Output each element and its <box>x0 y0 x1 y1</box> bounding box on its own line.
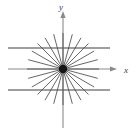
coordinate-plane-svg: y x <box>0 0 137 128</box>
x-axis-label: x <box>123 65 128 75</box>
origin-point <box>59 65 67 73</box>
math-figure-canvas: y x <box>0 0 137 128</box>
x-axis-arrowhead-icon <box>110 66 117 71</box>
y-axis-arrowhead-icon <box>60 11 65 18</box>
y-axis-label: y <box>58 2 63 12</box>
